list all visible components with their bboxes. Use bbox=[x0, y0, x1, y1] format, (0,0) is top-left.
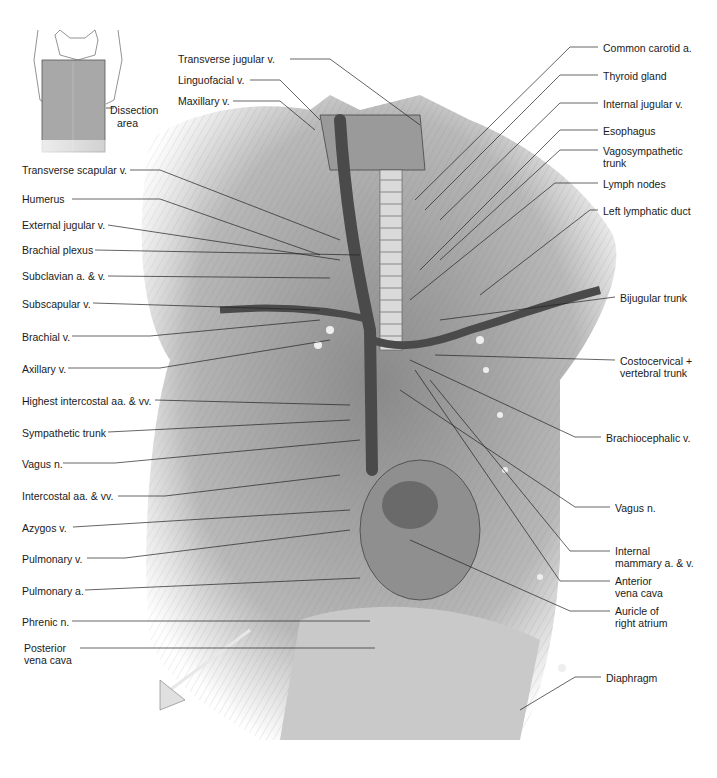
label-bijugular-trunk: Bijugular trunk bbox=[620, 292, 687, 304]
label-vagus-n-left: Vagus n. bbox=[22, 458, 63, 470]
label-maxillary-v: Maxillary v. bbox=[178, 95, 230, 107]
label-subclavian-a-v: Subclavian a. & v. bbox=[22, 270, 105, 282]
label-highest-intercostal: Highest intercostal aa. & vv. bbox=[22, 395, 151, 407]
label-vagus-n-right: Vagus n. bbox=[615, 502, 656, 514]
label-vagosympathetic-line1: Vagosympathetic bbox=[603, 145, 683, 157]
thorax-dissection bbox=[0, 95, 616, 740]
label-humerus: Humerus bbox=[22, 193, 65, 205]
label-lymph-nodes: Lymph nodes bbox=[603, 178, 666, 190]
label-common-carotid-a: Common carotid a. bbox=[603, 42, 692, 54]
label-costocervical-line2: vertebral trunk bbox=[620, 367, 687, 379]
label-diaphragm: Diaphragm bbox=[606, 672, 657, 684]
label-internal-jugular-v: Internal jugular v. bbox=[603, 98, 683, 110]
label-anterior-vena-cava-line2: vena cava bbox=[615, 587, 663, 599]
label-thyroid-gland: Thyroid gland bbox=[603, 70, 667, 82]
dissection-illustration bbox=[0, 0, 717, 778]
inset-cat-diagram bbox=[34, 30, 122, 152]
label-intercostal-aa-vv: Intercostal aa. & vv. bbox=[22, 490, 113, 502]
label-left-lymphatic-duct: Left lymphatic duct bbox=[603, 205, 691, 217]
label-transverse-jugular-v: Transverse jugular v. bbox=[178, 53, 275, 65]
label-esophagus: Esophagus bbox=[603, 125, 656, 137]
label-vagosympathetic-line2: trunk bbox=[603, 157, 626, 169]
label-pulmonary-v: Pulmonary v. bbox=[22, 553, 83, 565]
label-internal-mammary-line1: Internal bbox=[615, 545, 650, 557]
label-azygos-v: Azygos v. bbox=[22, 522, 67, 534]
label-brachial-plexus: Brachial plexus bbox=[22, 244, 93, 256]
label-auricle-line2: right atrium bbox=[615, 617, 668, 629]
label-sympathetic-trunk: Sympathetic trunk bbox=[22, 427, 106, 439]
label-posterior-vena-cava-line2: vena cava bbox=[24, 654, 72, 666]
label-external-jugular-v: External jugular v. bbox=[22, 219, 105, 231]
label-brachiocephalic-v: Brachiocephalic v. bbox=[606, 432, 690, 444]
dissection-area-box bbox=[42, 60, 105, 152]
label-linguofacial-v: Linguofacial v. bbox=[178, 74, 244, 86]
label-costocervical-line1: Costocervical + bbox=[620, 355, 692, 367]
label-brachial-v: Brachial v. bbox=[22, 331, 70, 343]
label-anterior-vena-cava-line1: Anterior bbox=[615, 575, 652, 587]
label-auricle-line1: Auricle of bbox=[615, 605, 659, 617]
label-axillary-v: Axillary v. bbox=[22, 363, 66, 375]
label-subscapular-v: Subscapular v. bbox=[22, 298, 91, 310]
inset-label-line1: Dissection bbox=[110, 104, 158, 116]
label-transverse-scapular-v: Transverse scapular v. bbox=[22, 164, 127, 176]
inset-label-line2: area bbox=[117, 117, 138, 129]
label-posterior-vena-cava-line1: Posterior bbox=[24, 642, 66, 654]
label-pulmonary-a: Pulmonary a. bbox=[22, 585, 84, 597]
anatomy-figure: Dissection area Transverse jugular v. Li… bbox=[0, 0, 717, 778]
label-phrenic-n: Phrenic n. bbox=[22, 616, 69, 628]
label-internal-mammary-line2: mammary a. & v. bbox=[615, 557, 694, 569]
